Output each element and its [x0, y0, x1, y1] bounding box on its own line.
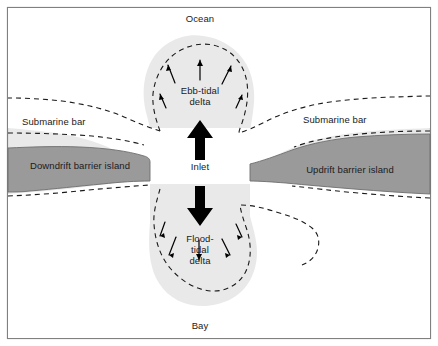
label-downdrift-barrier-island: Downdrift barrier island: [16, 160, 144, 171]
label-submarine-bar-left: Submarine bar: [22, 116, 112, 127]
label-bay: Bay: [182, 320, 218, 331]
label-inlet: Inlet: [178, 161, 222, 172]
label-flood-tidal-delta: Flood- tidal delta: [170, 233, 230, 266]
tidal-inlet-diagram: Ocean Ebb-tidal delta Inlet Flood- tidal…: [0, 0, 438, 346]
label-ocean: Ocean: [176, 13, 224, 24]
label-updrift-barrier-island: Updrift barrier island: [288, 164, 412, 175]
label-ebb-tidal-delta: Ebb-tidal delta: [168, 85, 232, 107]
label-submarine-bar-right: Submarine bar: [303, 114, 395, 125]
